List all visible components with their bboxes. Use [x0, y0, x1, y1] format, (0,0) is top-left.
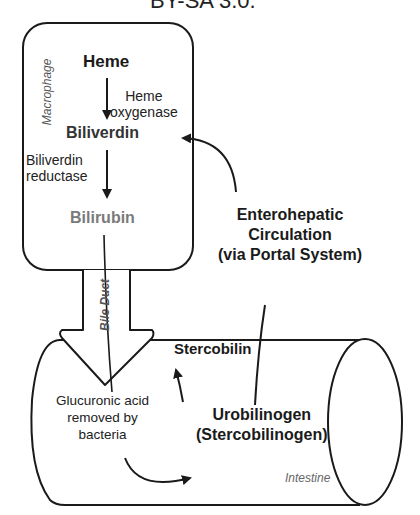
- enterohepatic-line2: Circulation: [218, 225, 362, 245]
- bilirubin-label: Bilirubin: [70, 209, 135, 227]
- biliverdin-reductase-label: Biliverdin reductase: [26, 152, 87, 184]
- urobilinogen-line2: (Stercobilinogen): [196, 425, 328, 445]
- license-text: BY-SA 3.0.: [150, 0, 256, 13]
- enterohepatic-line3: (via Portal System): [218, 245, 362, 265]
- arrow-urobilinogen-to-stercobilin: [176, 370, 183, 402]
- enterohepatic-line1: Enterohepatic: [218, 205, 362, 225]
- line-enterohepatic-bottom: [255, 305, 265, 405]
- enterohepatic-label: Enterohepatic Circulation (via Portal Sy…: [218, 205, 362, 265]
- heme-label: Heme: [83, 52, 129, 72]
- bile-duct-label: Bile Duct: [99, 279, 113, 331]
- urobilinogen-line1: Urobilinogen: [196, 405, 328, 425]
- arrow-bacteria-to-urobilinogen: [125, 458, 190, 482]
- macrophage-label: Macrophage: [41, 59, 55, 126]
- biliverdin-label: Biliverdin: [66, 124, 139, 142]
- intestine-opening: [328, 339, 402, 505]
- heme-oxygenase-line2: oxygenase: [110, 104, 178, 120]
- biliverdin-reductase-line1: Biliverdin: [26, 152, 87, 168]
- heme-oxygenase-line1: Heme: [110, 88, 178, 104]
- intestine-label: Intestine: [285, 472, 330, 486]
- glucuronic-line2: removed by: [56, 410, 149, 427]
- urobilinogen-label: Urobilinogen (Stercobilinogen): [196, 405, 328, 445]
- stercobilin-label: Stercobilin: [174, 340, 252, 357]
- heme-oxygenase-label: Heme oxygenase: [110, 88, 178, 120]
- biliverdin-reductase-line2: reductase: [26, 168, 87, 184]
- glucuronic-line1: Glucuronic acid: [56, 393, 149, 410]
- glucuronic-line3: bacteria: [56, 427, 149, 444]
- glucuronic-label: Glucuronic acid removed by bacteria: [56, 393, 149, 444]
